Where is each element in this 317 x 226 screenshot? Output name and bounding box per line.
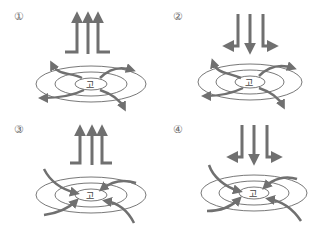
high-pressure-label: 고 <box>86 80 94 90</box>
downdraft-divergence-diagram: 고 <box>157 0 317 113</box>
vertical-arrows-up-icon <box>70 129 112 165</box>
vertical-arrows-up-icon <box>65 16 110 54</box>
panel-1: ① 고 <box>0 0 158 113</box>
panel-3: ③ 고 <box>0 113 158 226</box>
high-pressure-label: 고 <box>245 78 253 88</box>
vertical-arrows-down-icon <box>231 125 278 161</box>
downdraft-convergence-diagram: 고 <box>157 113 317 226</box>
updraft-convergence-diagram: 고 <box>0 113 158 226</box>
panel-2: ② 고 <box>157 0 315 113</box>
panel-4: ④ 고 <box>157 113 315 226</box>
updraft-divergence-diagram: 고 <box>0 0 158 113</box>
high-pressure-label: 고 <box>249 189 257 199</box>
vertical-arrows-down-icon <box>227 14 274 50</box>
high-pressure-label: 고 <box>86 191 94 201</box>
